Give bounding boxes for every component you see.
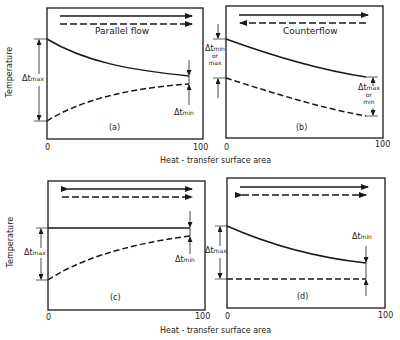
- x-tick-b-100: 100: [375, 140, 390, 149]
- cold-fluid-curve: [226, 78, 366, 116]
- panel-d-tag: (d): [297, 293, 308, 301]
- panel-c-frame: [48, 181, 205, 310]
- panel-c-dt-max-label: Δtmax: [24, 249, 46, 257]
- x-tick-d-0: 0: [225, 312, 230, 321]
- panel-a-dt-min-label: Δtmin: [174, 109, 194, 117]
- panel-d-frame: [227, 178, 385, 308]
- panel-d-dt-min-label: Δtmin: [352, 233, 372, 241]
- x-tick-c-0: 0: [46, 313, 51, 322]
- panel-b-dt-left-label: Δtmin or max: [205, 45, 225, 66]
- panel-b-tag: (b): [296, 124, 307, 132]
- panel-a-tag: (a): [109, 124, 120, 132]
- x-tick-c-100: 100: [195, 312, 210, 321]
- panel-c-tag: (c): [110, 294, 121, 302]
- x-tick-d-100: 100: [378, 311, 393, 320]
- x-tick-b-0: 0: [224, 143, 229, 152]
- panel-a-title: Parallel flow: [95, 27, 149, 36]
- x-tick-a-0: 0: [45, 143, 50, 152]
- panel-c-dt-min-label: Δtmin: [175, 256, 195, 264]
- panel-d-dt-max-label: Δtmax: [205, 247, 227, 255]
- hot-fluid-curve: [227, 226, 366, 263]
- diagram-canvas: [0, 0, 400, 340]
- panel-a-dt-max-label: Δtmax: [22, 75, 44, 83]
- hot-fluid-curve: [47, 39, 189, 76]
- panel-c-condensing: [36, 181, 205, 310]
- y-axis-label-bottom: Temperature: [6, 218, 15, 268]
- x-axis-label-top: Heat - transfer surface area: [160, 157, 271, 165]
- cold-fluid-curve: [47, 84, 189, 121]
- x-axis-label-bottom: Heat - transfer surface area: [160, 327, 271, 335]
- hot-fluid-curve: [226, 39, 366, 77]
- panel-d-evaporating: [215, 178, 385, 308]
- panel-b-title: Counterflow: [283, 27, 338, 36]
- panel-b-dt-right-label: Δtmax or min: [358, 84, 380, 105]
- y-axis-label-top: Temperature: [5, 48, 14, 98]
- x-tick-a-100: 100: [193, 143, 208, 152]
- cold-fluid-curve: [48, 236, 190, 280]
